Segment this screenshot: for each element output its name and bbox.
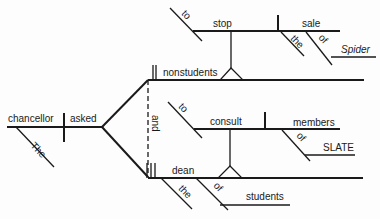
- pedestal-triangle-2: [218, 166, 242, 178]
- word-and: and: [150, 115, 161, 132]
- word-chancellor: chancellor: [8, 113, 54, 124]
- word-of-dean: of: [212, 180, 226, 194]
- word-sale: sale: [302, 18, 321, 29]
- sentence-diagram: chancellor The asked and nonstudents to …: [0, 0, 380, 219]
- word-of-members: of: [295, 130, 309, 144]
- word-the-sale: the: [289, 33, 307, 51]
- word-stop: stop: [213, 18, 232, 29]
- word-the-dean: the: [177, 183, 195, 201]
- word-of-sale: of: [317, 32, 331, 46]
- fork-upper: [102, 80, 148, 127]
- word-nonstudents: nonstudents: [163, 67, 218, 78]
- word-spider: Spider: [341, 44, 371, 55]
- word-slate: SLATE: [323, 142, 354, 153]
- word-consult: consult: [210, 116, 242, 127]
- word-members: members: [293, 117, 335, 128]
- word-dean: dean: [172, 165, 194, 176]
- fork-lower: [102, 127, 148, 177]
- word-asked: asked: [70, 113, 97, 124]
- diagram-svg: chancellor The asked and nonstudents to …: [0, 0, 380, 219]
- word-students: students: [246, 191, 284, 202]
- pedestal-triangle-1: [220, 68, 243, 80]
